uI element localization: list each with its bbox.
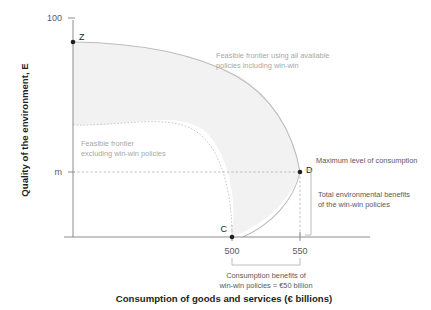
annotation-max-consumption: Maximum level of consumption xyxy=(316,156,417,165)
y-tick-label-100: 100 xyxy=(47,13,62,23)
annotation-outer-frontier-line1: Feasible frontier using all available xyxy=(216,51,329,60)
point-z-marker xyxy=(71,40,76,45)
annotation-cons-benefits-line2: win-win policies = €50 billion xyxy=(218,281,312,290)
point-z-label: Z xyxy=(79,32,85,42)
annotation-inner-frontier-line2: excluding win-win policies xyxy=(81,149,166,158)
x-axis-title: Consumption of goods and services (€ bil… xyxy=(116,293,332,304)
annotation-cons-benefits-line1: Consumption benefits of xyxy=(226,271,307,280)
y-tick-label-m: m xyxy=(55,167,63,177)
x-tick-label-550: 550 xyxy=(292,246,307,256)
point-c-label: C xyxy=(221,224,228,234)
consumption-benefits-bracket xyxy=(232,258,300,265)
annotation-env-benefits-line1: Total environmental benefits xyxy=(318,190,410,199)
annotation-outer-frontier-line2: policies including win-win xyxy=(216,61,299,70)
annotation-inner-frontier-line1: Feasible frontier xyxy=(81,139,135,148)
y-axis-title: Quality of the environment, E xyxy=(19,63,30,197)
environmental-benefits-bracket xyxy=(305,170,311,235)
annotation-env-benefits-line2: of the win-win policies xyxy=(318,200,390,209)
point-c-marker xyxy=(230,235,235,240)
point-d-marker xyxy=(298,170,303,175)
ppf-chart-svg: 100 m 500 550 Z C D Feasible frontier us… xyxy=(0,0,431,310)
chart-canvas: 100 m 500 550 Z C D Feasible frontier us… xyxy=(0,0,431,310)
x-tick-label-500: 500 xyxy=(224,246,239,256)
